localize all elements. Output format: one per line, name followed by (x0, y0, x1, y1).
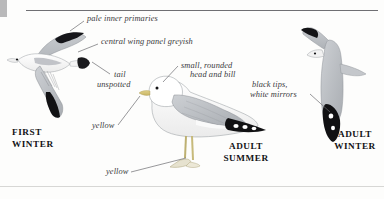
age-label-first-winter: FIRST WINTER (12, 126, 74, 151)
annotation-head-bill-line2: head and bill (190, 70, 236, 80)
annotation-black-tips-line2: white mirrors (250, 90, 297, 100)
annotation-tail-line2: unspotted (97, 80, 130, 90)
leader-yellow-bill (118, 96, 140, 125)
leader-lines-layer (0, 0, 384, 199)
leader-pale-inner-primaries (70, 21, 84, 31)
leader-tail-unspotted (92, 62, 110, 74)
annotation-central-wing-panel: central wing panel greyish (101, 37, 193, 47)
leader-black-tips-white-mirrors (310, 94, 330, 112)
annotation-yellow-legs: yellow (106, 167, 128, 177)
annotation-tail-line1: tail (114, 70, 126, 80)
leader-yellow-legs (131, 158, 186, 172)
leader-central-wing-panel (78, 44, 98, 52)
age-label-adult-summer: ADULT SUMMER (212, 140, 280, 165)
annotation-yellow-bill: yellow (92, 121, 114, 131)
annotation-pale-inner-primaries: pale inner primaries (87, 14, 158, 24)
annotation-black-tips-line1: black tips, (252, 80, 288, 90)
illustration-plate: pale inner primaries central wing panel … (0, 0, 384, 199)
leader-head-and-bill (163, 66, 178, 82)
age-label-adult-winter: ADULT WINTER (330, 128, 380, 153)
